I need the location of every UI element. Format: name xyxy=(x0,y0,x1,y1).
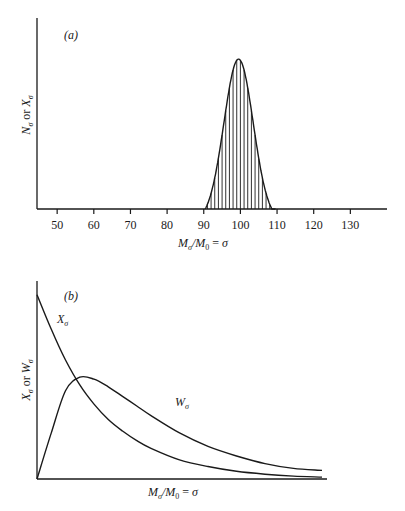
b-x-label: Mσ/M0 = σ xyxy=(147,485,199,501)
b-curve-x-sigma xyxy=(37,295,322,477)
b-curve-x-label: Xσ xyxy=(56,312,69,328)
a-x-tick-label: 70 xyxy=(124,218,136,232)
a-x-tick-label: 50 xyxy=(51,218,63,232)
b-panel-label: (b) xyxy=(64,289,78,303)
a-x-tick-label: 100 xyxy=(231,218,249,232)
panel-b: (b) Xσ Wσ Xσ or Wσ Mσ/M0 = σ xyxy=(19,281,327,501)
a-x-tick-label: 90 xyxy=(198,218,210,232)
b-curve-w-label: Wσ xyxy=(175,395,190,411)
a-panel-label: (a) xyxy=(64,28,78,42)
figure: (a) 5060708090100110120130 Nσ or Xσ Mσ/M… xyxy=(0,0,405,511)
a-y-label: Nσ or Xσ xyxy=(19,94,35,135)
b-y-label: Xσ or Wσ xyxy=(19,358,35,401)
a-x-label: Mσ/M0 = σ xyxy=(177,236,229,252)
a-x-tick-label: 60 xyxy=(88,218,100,232)
a-x-tick-label: 120 xyxy=(305,218,323,232)
a-x-tick-label: 130 xyxy=(341,218,359,232)
a-x-tick-label: 80 xyxy=(161,218,173,232)
a-x-ticks: 5060708090100110120130 xyxy=(51,209,359,232)
a-hatching xyxy=(207,60,273,209)
b-curve-w-sigma xyxy=(37,376,322,479)
panel-a: (a) 5060708090100110120130 Nσ or Xσ Mσ/M… xyxy=(19,18,387,252)
a-x-tick-label: 110 xyxy=(268,218,286,232)
